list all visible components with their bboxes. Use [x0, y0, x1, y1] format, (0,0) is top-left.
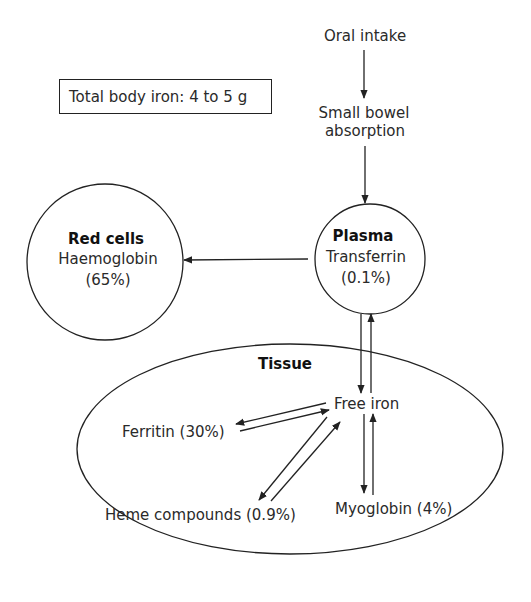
arrow-plasma-to-redcells	[184, 259, 308, 260]
total-iron-label: Total body iron: 4 to 5 g	[69, 90, 247, 105]
free-iron-label: Free iron	[334, 397, 399, 412]
red-cells-value: (65%)	[85, 273, 130, 288]
arrow-heme-to-freeiron	[271, 422, 340, 501]
heme-compounds-label: Heme compounds (0.9%)	[105, 508, 296, 523]
small-bowel-label-line1: Small bowel	[319, 106, 410, 121]
plasma-value: (0.1%)	[341, 271, 391, 286]
tissue-title: Tissue	[258, 357, 312, 372]
ferritin-label: Ferritin (30%)	[122, 425, 225, 440]
plasma-title: Plasma	[333, 229, 394, 244]
plasma-subtitle: Transferrin	[326, 250, 406, 265]
oral-intake-label: Oral intake	[324, 29, 406, 44]
arrow-freeiron-to-heme	[259, 417, 327, 500]
red-cells-title: Red cells	[68, 232, 144, 247]
small-bowel-label-line2: absorption	[325, 124, 405, 139]
red-cells-subtitle: Haemoglobin	[58, 252, 158, 267]
myoglobin-label: Myoglobin (4%)	[335, 502, 452, 517]
